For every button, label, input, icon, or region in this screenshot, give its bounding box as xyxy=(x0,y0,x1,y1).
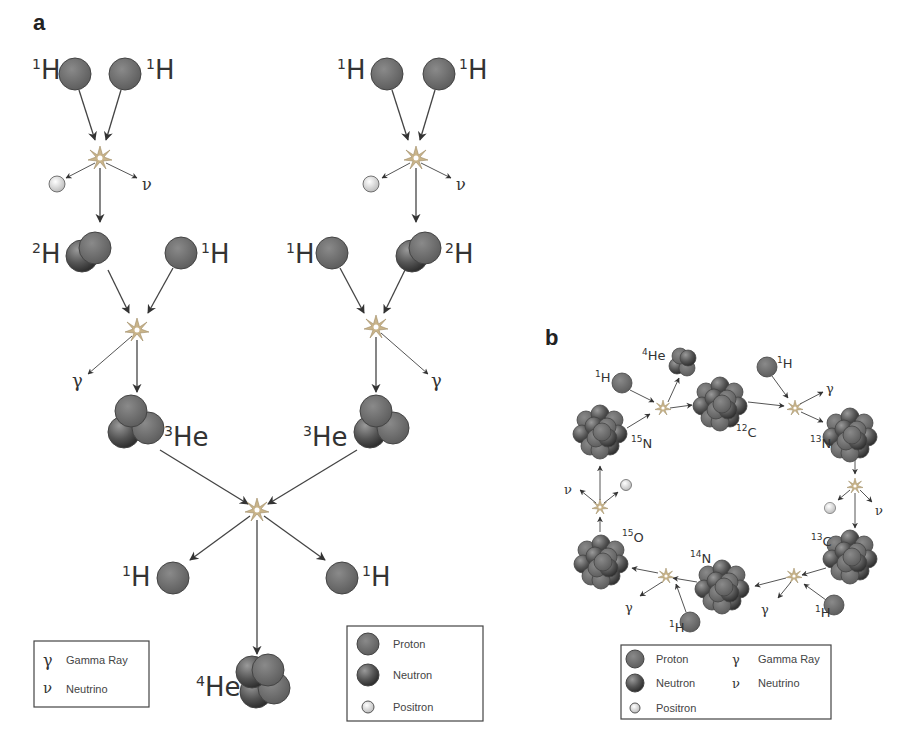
cno-cycle: 15N 1H 4He 12C 1H γ 13N xyxy=(564,347,883,635)
neutrino-symbol: ν xyxy=(732,676,740,691)
proton-particle xyxy=(109,58,141,90)
reaction-arrow xyxy=(676,584,686,612)
h1-label: 1H xyxy=(459,55,487,85)
he4-nucleus xyxy=(236,654,290,708)
legend-symbols: γ Gamma Ray ν Neutrino xyxy=(34,641,149,707)
o15-label: 15O xyxy=(622,528,644,545)
neutrino-symbol: ν xyxy=(43,679,52,697)
reaction-arrow xyxy=(108,270,129,313)
reaction-arrow xyxy=(580,490,596,503)
n13-label: 13N xyxy=(810,434,831,451)
n14-nucleus xyxy=(695,560,749,614)
gamma-symbol: γ xyxy=(826,381,834,396)
reaction-arrow xyxy=(632,568,658,573)
n14-label: 14N xyxy=(690,549,711,566)
reaction-arrow xyxy=(340,268,364,313)
legend-label-proton: Proton xyxy=(393,638,425,650)
h1-label: 1H xyxy=(32,55,60,85)
h1-label: 1H xyxy=(362,562,390,592)
legend-particles: Proton Neutron Positron xyxy=(347,626,483,721)
neutron-icon xyxy=(626,674,644,692)
reaction-burst-icon xyxy=(125,318,149,341)
positron-particle xyxy=(621,480,632,491)
he3-label: 3He xyxy=(164,422,208,452)
reaction-arrow xyxy=(640,582,662,596)
o15-nucleus xyxy=(574,535,628,589)
proton-particle xyxy=(157,562,189,594)
gamma-symbol: γ xyxy=(732,652,740,667)
proton-proton-cno-diagram: a 1H 1H ν 2H 1H γ 3He 1 xyxy=(0,0,913,750)
gamma-symbol: γ xyxy=(431,370,442,391)
reaction-burst-icon xyxy=(658,568,674,583)
gamma-symbol: γ xyxy=(761,602,769,617)
h1-label: 1H xyxy=(122,562,150,592)
h2-label: 2H xyxy=(445,239,473,269)
reaction-arrow xyxy=(670,405,692,408)
reaction-burst-icon xyxy=(787,400,803,415)
gamma-symbol: γ xyxy=(72,370,83,391)
proton-particle xyxy=(612,373,632,393)
legend-panel-b: Proton Neutron Positron γ Gamma Ray ν Ne… xyxy=(621,645,831,719)
c13-label: 13C xyxy=(811,532,832,549)
h1-label: 1H xyxy=(201,239,229,269)
h1-label: 1H xyxy=(815,604,831,620)
he3-nucleus xyxy=(108,395,164,448)
proton-icon xyxy=(626,650,644,668)
positron-particle xyxy=(363,176,379,192)
legend-label-neutron: Neutron xyxy=(656,677,695,689)
proton-particle xyxy=(371,58,403,90)
legend-label-gamma-ray: Gamma Ray xyxy=(66,654,128,666)
reaction-arrow xyxy=(88,336,132,374)
h1-label: 1H xyxy=(146,55,174,85)
reaction-arrow xyxy=(673,578,697,582)
proton-icon xyxy=(357,633,379,655)
reaction-arrow xyxy=(755,578,786,586)
reaction-arrow xyxy=(106,90,121,140)
reaction-arrow xyxy=(801,412,823,422)
legend-label-gamma-ray: Gamma Ray xyxy=(758,653,820,665)
pp-chain-right-branch: 1H 1H ν 1H 2H γ 3He xyxy=(286,55,487,452)
proton-particle xyxy=(326,562,358,594)
panel-a-label: a xyxy=(33,10,46,35)
h1-label: 1H xyxy=(669,619,685,635)
reaction-arrow xyxy=(106,163,137,178)
neutrino-symbol: ν xyxy=(142,175,152,194)
reaction-arrow xyxy=(804,584,826,600)
reaction-arrow xyxy=(66,163,95,178)
reaction-arrow xyxy=(148,268,173,313)
reaction-arrow xyxy=(392,90,408,140)
reaction-arrow xyxy=(860,490,872,502)
reaction-burst-icon xyxy=(88,146,112,169)
he3-label: 3He xyxy=(303,422,347,452)
reaction-arrow xyxy=(604,492,618,503)
legend-label-neutrino: Neutrino xyxy=(66,683,108,695)
reaction-arrow xyxy=(268,450,357,504)
reaction-arrow xyxy=(838,490,850,500)
reaction-arrow xyxy=(802,568,826,575)
reaction-arrow xyxy=(630,390,654,402)
proton-particle xyxy=(423,58,455,90)
reaction-burst-icon xyxy=(364,315,388,338)
proton-particle xyxy=(409,232,441,264)
reaction-burst-icon xyxy=(786,568,802,583)
positron-particle xyxy=(824,502,835,513)
reaction-arrow xyxy=(420,90,435,140)
c12-label: 12C xyxy=(736,423,757,440)
pp-chain-left-branch: 1H 1H ν 2H 1H γ 3He xyxy=(32,55,229,452)
panel-b-label: b xyxy=(545,325,558,350)
reaction-arrow xyxy=(778,582,791,598)
reaction-arrow xyxy=(772,376,788,398)
h1-label: 1H xyxy=(337,55,365,85)
legend-label-proton: Proton xyxy=(656,653,688,665)
neutrino-symbol: ν xyxy=(564,482,572,497)
n15-nucleus xyxy=(573,405,627,459)
positron-icon xyxy=(630,703,640,713)
he3-nucleus xyxy=(354,395,409,448)
reaction-arrow xyxy=(800,392,823,404)
gamma-symbol: γ xyxy=(625,600,633,615)
legend-label-positron: Positron xyxy=(656,702,696,714)
legend-label-positron: Positron xyxy=(393,701,433,713)
proton-particle xyxy=(165,237,197,269)
legend-label-neutron: Neutron xyxy=(393,669,432,681)
positron-particle xyxy=(49,176,65,192)
